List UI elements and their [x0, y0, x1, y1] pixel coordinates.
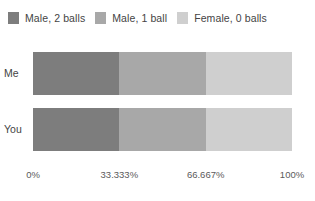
bar-segment-female-0-balls[interactable]	[206, 52, 292, 95]
stacked-bar	[33, 108, 292, 151]
bar-row-label: You	[4, 108, 30, 151]
bar-row-me: Me	[0, 52, 315, 95]
bar-row-label: Me	[4, 52, 30, 95]
bar-segment-male-1-ball[interactable]	[119, 108, 205, 151]
legend-swatch-icon	[8, 12, 19, 24]
legend-item-label: Male, 1 ball	[112, 12, 167, 24]
stacked-bar	[33, 52, 292, 95]
axis-tick-label: 66.667%	[187, 168, 225, 182]
bar-segment-male-2-balls[interactable]	[33, 52, 119, 95]
bar-segment-male-2-balls[interactable]	[33, 108, 119, 151]
plot-area: Me You	[0, 40, 315, 165]
x-axis: 0% 33.333% 66.667% 100%	[0, 168, 315, 182]
stacked-bar-chart: Male, 2 balls Male, 1 ball Female, 0 bal…	[0, 0, 315, 201]
bar-row-you: You	[0, 108, 315, 151]
chart-legend: Male, 2 balls Male, 1 ball Female, 0 bal…	[0, 9, 315, 27]
axis-tick-label: 0%	[26, 168, 40, 182]
legend-item-female-0-balls[interactable]: Female, 0 balls	[177, 12, 267, 24]
bar-segment-male-1-ball[interactable]	[119, 52, 205, 95]
legend-swatch-icon	[177, 12, 188, 24]
legend-item-label: Female, 0 balls	[194, 12, 267, 24]
legend-swatch-icon	[95, 12, 106, 24]
axis-tick-label: 100%	[280, 168, 304, 182]
bar-segment-female-0-balls[interactable]	[206, 108, 292, 151]
legend-item-label: Male, 2 balls	[25, 12, 85, 24]
legend-item-male-1-ball[interactable]: Male, 1 ball	[95, 12, 167, 24]
axis-tick-label: 33.333%	[101, 168, 139, 182]
legend-item-male-2-balls[interactable]: Male, 2 balls	[8, 12, 85, 24]
